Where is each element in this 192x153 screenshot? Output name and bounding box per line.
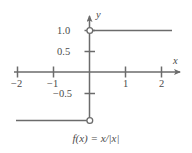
x-tick-label-2: 2 (159, 79, 164, 90)
x-tick-label-1: 1 (123, 79, 128, 90)
figure-caption: f(x) = x/|x| (0, 133, 192, 144)
x-tick-label-minus2: −2 (11, 79, 22, 90)
plot-canvas (0, 0, 192, 153)
open-circle-upper (87, 28, 93, 34)
y-tick-label-minus0point5: −0.5 (53, 89, 72, 100)
x-tick-label-minus1: −1 (47, 79, 58, 90)
y-axis-label: y (96, 10, 101, 21)
y-tick-label-1point0: 1.0 (57, 26, 70, 37)
function-graph-figure: 1.0 0.5 −0.5 −2 −1 1 2 y x f(x) = x/|x| (0, 0, 192, 153)
y-tick-label-0point5: 0.5 (57, 47, 70, 58)
x-axis-label: x (173, 56, 178, 67)
open-circle-lower (87, 118, 93, 124)
